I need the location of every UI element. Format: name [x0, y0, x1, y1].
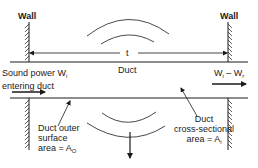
outer-surface-label: Duct outer surface area = AO	[38, 123, 80, 156]
left-wall-label: Wall	[18, 11, 36, 21]
exit-power-label: Wi – Wr	[214, 68, 244, 81]
sound-power-label: Sound power Wi entering duct	[2, 68, 67, 91]
cross-section-leader	[181, 88, 197, 116]
radiated-sound-arcs-top	[87, 19, 169, 44]
radiated-sound-arcs-bottom	[87, 112, 165, 137]
length-label: t	[126, 48, 129, 58]
right-wall-label: Wall	[220, 11, 238, 21]
cross-section-label: Duct cross-sectional area = Ai	[168, 114, 240, 147]
duct-label: Duct	[118, 65, 137, 75]
